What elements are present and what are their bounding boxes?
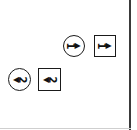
- symbol-label-1: 1: [97, 43, 107, 50]
- symbol-label-2: 2: [48, 76, 58, 83]
- frame-bottom-border: [0, 128, 131, 129]
- symbol-label-2: 2: [18, 76, 28, 83]
- boxed-symbol-1: 1 ▶: [94, 35, 116, 57]
- circled-symbol-2: ◀ 2: [8, 68, 31, 91]
- frame-right-border: [129, 0, 131, 130]
- boxed-symbol-2: ◀ 2: [38, 68, 61, 91]
- symbol-label-1: 1: [66, 43, 76, 50]
- circled-symbol-1: 1 ▶: [63, 35, 85, 57]
